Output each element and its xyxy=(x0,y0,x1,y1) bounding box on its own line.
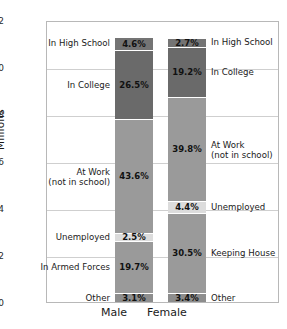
segment-male-at-work[interactable]: 43.6% At Work (not in school) xyxy=(115,119,153,233)
segment-male-in-armed-forces[interactable]: 19.7% In Armed Forces xyxy=(115,241,153,293)
y-tick-12: 12 xyxy=(0,17,4,26)
segment-male-unemployed[interactable]: 2.5% Unemployed xyxy=(115,233,153,241)
gridline-8 xyxy=(47,116,278,117)
label-male-in-armed-forces: In Armed Forces xyxy=(40,263,110,273)
segment-male-other[interactable]: 3.1% Other xyxy=(115,293,153,302)
segment-female-at-work[interactable]: 39.8% At Work (not in school) xyxy=(168,97,206,201)
y-tick-4: 4 xyxy=(0,205,4,214)
label-male-at-work-line1: At Work xyxy=(76,167,110,177)
segment-pct-male-other: 3.1% xyxy=(115,294,153,303)
segment-pct-female-in-college: 19.2% xyxy=(168,68,206,77)
y-tick-6: 6 xyxy=(0,158,4,167)
stacked-bar-chart: Millions 12 10 8 6 4 2 0 4.6% In High Sc… xyxy=(0,0,287,329)
segment-pct-female-other: 3.4% xyxy=(168,294,206,303)
x-axis-label-female: Female xyxy=(132,306,202,319)
y-tick-0: 0 xyxy=(0,299,4,308)
label-female-at-work-line1: At Work xyxy=(211,140,245,150)
segment-pct-female-at-work: 39.8% xyxy=(168,145,206,154)
bar-male[interactable]: 4.6% In High School 26.5% In College 43.… xyxy=(115,38,153,302)
plot-area: 4.6% In High School 26.5% In College 43.… xyxy=(46,21,279,303)
segment-male-in-high-school[interactable]: 4.6% In High School xyxy=(115,38,153,50)
segment-pct-male-in-college: 26.5% xyxy=(115,81,153,90)
label-male-at-work: At Work (not in school) xyxy=(48,167,110,187)
segment-pct-female-keeping-house: 30.5% xyxy=(168,249,206,258)
segment-pct-male-at-work: 43.6% xyxy=(115,172,153,181)
label-female-in-college: In College xyxy=(211,68,254,78)
label-male-at-work-line2: (not in school) xyxy=(48,177,110,187)
label-male-other: Other xyxy=(86,294,110,304)
label-female-at-work: At Work (not in school) xyxy=(211,140,273,160)
label-female-other: Other xyxy=(211,294,235,304)
label-female-at-work-line2: (not in school) xyxy=(211,150,273,160)
segment-female-keeping-house[interactable]: 30.5% Keeping House xyxy=(168,213,206,293)
y-tick-10: 10 xyxy=(0,64,4,73)
y-tick-8: 8 xyxy=(0,111,4,120)
gridline-6 xyxy=(47,163,278,164)
segment-female-in-high-school[interactable]: 2.7% In High School xyxy=(168,39,206,47)
segment-female-in-college[interactable]: 19.2% In College xyxy=(168,47,206,97)
bar-female[interactable]: 2.7% In High School 19.2% In College 39.… xyxy=(168,39,206,302)
label-female-keeping-house: Keeping House xyxy=(211,249,275,259)
segment-pct-male-in-high-school: 4.6% xyxy=(115,40,153,49)
segment-female-unemployed[interactable]: 4.4% Unemployed xyxy=(168,201,206,213)
segment-pct-female-unemployed: 4.4% xyxy=(168,203,206,212)
segment-male-in-college[interactable]: 26.5% In College xyxy=(115,50,153,119)
label-female-unemployed: Unemployed xyxy=(211,203,265,213)
label-female-in-high-school: In High School xyxy=(211,38,273,48)
label-male-in-high-school: In High School xyxy=(48,39,110,49)
y-tick-2: 2 xyxy=(0,252,4,261)
label-male-in-college: In College xyxy=(67,81,110,91)
label-male-unemployed: Unemployed xyxy=(56,233,110,243)
segment-pct-male-in-armed-forces: 19.7% xyxy=(115,263,153,272)
segment-female-other[interactable]: 3.4% Other xyxy=(168,293,206,302)
